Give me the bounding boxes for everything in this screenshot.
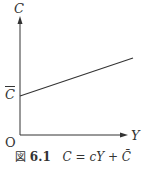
figure-prefix: 図	[15, 151, 26, 164]
x-axis-label: Y	[131, 129, 140, 142]
y-axis-label: C	[14, 2, 24, 15]
figure-equation: C = cY + C̄	[63, 150, 131, 164]
diagram-canvas	[0, 0, 146, 169]
intercept-label: C	[5, 88, 15, 101]
figure-caption: 図 6.1 C = cY + C̄	[0, 148, 146, 164]
y-axis-arrow-icon	[18, 16, 23, 24]
x-axis-arrow-icon	[120, 133, 128, 138]
consumption-line	[20, 58, 133, 96]
figure-number: 6.1	[30, 150, 51, 164]
